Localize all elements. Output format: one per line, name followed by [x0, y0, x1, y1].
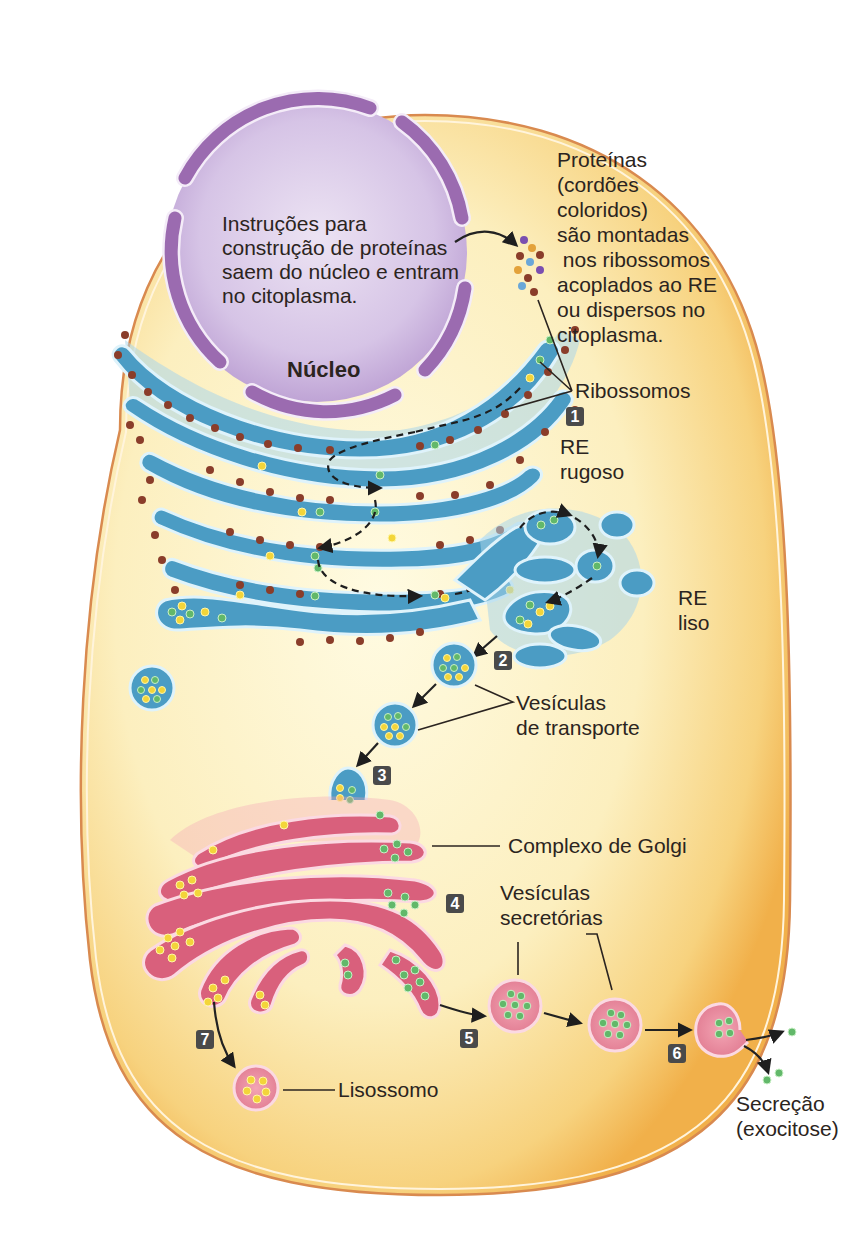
transport-vesicles-label-line-1: Vesículas	[516, 691, 606, 714]
proteins-caption-line-4: são montadas	[557, 223, 689, 246]
nucleus: Instruções para construção de proteínas …	[167, 98, 467, 411]
golgi-label: Complexo de Golgi	[508, 834, 687, 857]
step-badge-number: 7	[201, 1031, 210, 1048]
proteins-caption-line-8: citoplasma.	[557, 323, 663, 346]
nucleus-caption-line-4: no citoplasma.	[222, 284, 357, 307]
step-badge-number: 1	[571, 408, 580, 425]
secretion-label-line-2: (exocitose)	[736, 1117, 839, 1140]
ribosomes-label: Ribossomos	[575, 379, 691, 402]
secretory-vesicles-label-line-2: secretórias	[500, 906, 603, 929]
proteins-caption-line-3: coloridos)	[557, 198, 648, 221]
step-badge-number: 2	[499, 652, 508, 669]
nucleus-caption-line-2: construção de proteínas	[222, 236, 447, 259]
vesicle-transport-1	[432, 643, 476, 687]
proteins-caption-line-2: (cordões	[557, 173, 639, 196]
nucleus-caption-line-1: Instruções para	[222, 212, 367, 235]
secretory-vesicles-label-line-1: Vesículas	[500, 881, 590, 904]
secretory-pathway-diagram: Instruções para construção de proteínas …	[0, 0, 859, 1245]
step-badge-number: 5	[465, 1030, 474, 1047]
secretory-vesicle-2	[589, 999, 641, 1051]
step-badge-number: 4	[451, 895, 460, 912]
lysosome	[234, 1066, 278, 1110]
smooth-er-label-line-1: RE	[678, 586, 707, 609]
lysosome-label: Lisossomo	[338, 1078, 438, 1101]
proteins-caption-line-1: Proteínas	[557, 148, 647, 171]
proteins-caption-line-6: acoplados ao RE	[557, 273, 717, 296]
nucleus-caption-line-3: saem do núcleo e entram	[222, 260, 459, 283]
smooth-er-label-line-2: liso	[678, 611, 710, 634]
rough-er-label-line-2: rugoso	[560, 460, 624, 483]
transport-vesicles-label-line-2: de transporte	[516, 716, 640, 739]
secretion-label-line-1: Secreção	[736, 1092, 825, 1115]
vesicle-transport-2	[373, 703, 417, 747]
proteins-caption-line-5: nos ribossomos	[557, 248, 710, 271]
vesicle-isolated	[130, 666, 174, 710]
secretory-vesicle-1	[489, 980, 541, 1032]
rough-er-label-line-1: RE	[560, 435, 589, 458]
step-badge-number: 6	[673, 1045, 682, 1062]
nucleus-label: Núcleo	[287, 357, 360, 382]
step-badge-number: 3	[378, 767, 387, 784]
proteins-caption-line-7: ou dispersos no	[557, 298, 705, 321]
